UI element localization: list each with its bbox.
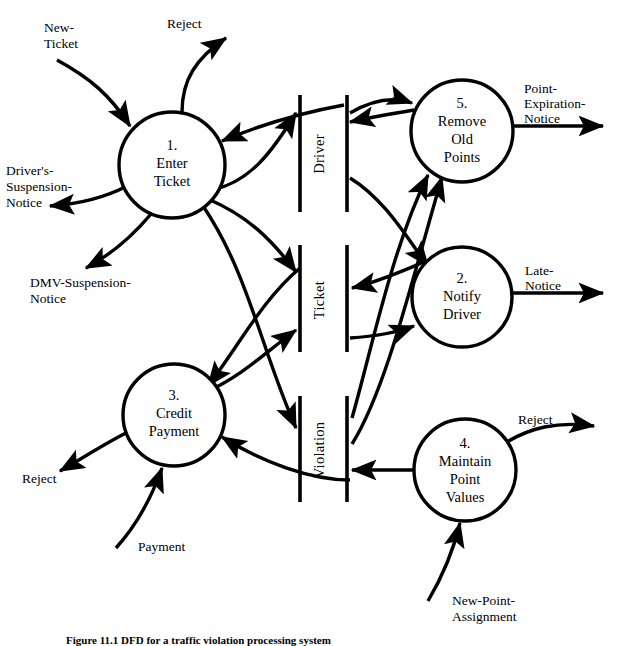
data-store-violation-label: Violation [311, 421, 327, 478]
flow-label-new-ticket-line-2: Ticket [44, 36, 78, 51]
flow-arrow-ticket-store-to-p2 [350, 326, 414, 338]
data-store-violation: Violation [300, 396, 347, 502]
flow-label-reject-enter-ticket: Reject [167, 16, 202, 31]
flow-label-drivers-suspension-notice-line-2: Suspension- [6, 179, 73, 194]
process-4-maintain-point-values[interactable]: 4. Maintain Point Values [414, 419, 516, 521]
process-4-name-line-3: Values [446, 489, 485, 505]
process-1-number: 1. [167, 137, 178, 153]
process-2-name-line-2: Driver [443, 306, 481, 322]
process-3-name-line-1: Credit [156, 405, 192, 421]
process-4-number: 4. [460, 435, 471, 451]
flow-label-point-expiration-notice-line-1: Point- [524, 81, 558, 96]
flow-arrow-payment [116, 468, 162, 548]
flow-label-late-notice: Late- Notice [525, 263, 561, 293]
process-5-number: 5. [457, 95, 468, 111]
flow-arrow-new-point-assignment [428, 523, 460, 601]
flow-arrow-driver-store-to-p2 [350, 178, 428, 266]
flow-label-point-expiration-notice: Point- Expiration- Notice [524, 81, 586, 126]
flow-label-point-expiration-notice-line-3: Notice [524, 111, 560, 126]
process-1-name-line-2: Ticket [154, 173, 191, 189]
flow-label-dmv-suspension-notice: DMV-Suspension- Notice [30, 275, 131, 306]
process-5-name-line-2: Old [451, 131, 474, 147]
process-2-number: 2. [457, 270, 468, 286]
flow-label-reject-maintain-point-values: Reject [518, 412, 553, 427]
flow-arrow-reject-credit-payment [60, 433, 126, 471]
flow-arrow-p5-to-driver-store [350, 110, 414, 122]
process-4-name-line-1: Maintain [439, 453, 492, 469]
flow-arrow-dmv-suspension-notice [86, 214, 151, 268]
flow-arrow-ticket-store-to-p3 [208, 268, 300, 386]
process-1-name-line-1: Enter [156, 155, 188, 171]
process-5-name-line-1: Remove [438, 113, 486, 129]
flow-label-new-ticket-line-1: New- [44, 20, 74, 35]
flow-label-new-ticket: New- Ticket [44, 20, 78, 51]
flow-arrow-violation-store-to-p3 [222, 437, 350, 480]
flow-arrow-new-ticket [57, 60, 130, 126]
flow-label-late-notice-line-2: Notice [525, 278, 561, 293]
flow-label-drivers-suspension-notice-line-3: Notice [6, 195, 42, 210]
data-store-driver-label: Driver [311, 134, 327, 174]
flow-label-payment: Payment [138, 539, 185, 554]
process-2-notify-driver[interactable]: 2. Notify Driver [412, 247, 512, 347]
process-5-remove-old-points[interactable]: 5. Remove Old Points [411, 80, 513, 182]
process-4-name-line-2: Point [450, 471, 481, 487]
process-3-number: 3. [169, 387, 180, 403]
figure-caption: Figure 11.1 DFD for a traffic violation … [66, 634, 331, 646]
flow-label-new-point-assignment-line-2: Assignment [452, 609, 517, 624]
dfd-svg: Driver Ticket Violation 1. Enter Ticket … [0, 0, 627, 646]
flow-arrow-reject-enter-ticket [182, 38, 226, 112]
process-2-name-line-1: Notify [443, 288, 482, 304]
process-3-name-line-2: Payment [149, 423, 200, 439]
flow-label-dmv-suspension-notice-line-1: DMV-Suspension- [30, 275, 131, 290]
flow-label-new-point-assignment-line-1: New-Point- [452, 593, 515, 608]
flow-arrow-reject-maintain-point-values [505, 424, 594, 443]
flow-label-late-notice-line-1: Late- [525, 263, 554, 278]
flow-arrow-p3-to-ticket-store [206, 330, 296, 392]
data-store-ticket-label: Ticket [311, 281, 327, 319]
process-3-credit-payment[interactable]: 3. Credit Payment [123, 364, 225, 466]
flow-label-dmv-suspension-notice-line-2: Notice [30, 291, 66, 306]
process-5-name-line-3: Points [444, 149, 481, 165]
dfd-diagram-canvas: Driver Ticket Violation 1. Enter Ticket … [0, 0, 627, 646]
flow-label-point-expiration-notice-line-2: Expiration- [524, 96, 586, 111]
flow-label-drivers-suspension-notice: Driver's- Suspension- Notice [6, 163, 73, 210]
flow-label-drivers-suspension-notice-line-1: Driver's- [6, 163, 54, 178]
flow-label-reject-credit-payment: Reject [22, 471, 57, 486]
data-store-ticket: Ticket [300, 245, 347, 352]
flow-label-new-point-assignment: New-Point- Assignment [452, 593, 517, 624]
process-1-enter-ticket[interactable]: 1. Enter Ticket [119, 112, 225, 218]
